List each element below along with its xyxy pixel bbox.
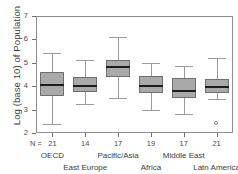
y-tick-label: 6: [4, 35, 28, 43]
box-iqr: [106, 60, 130, 76]
whisker-cap-lower: [142, 110, 160, 111]
whisker-cap-lower: [175, 114, 193, 115]
n-prefix-label: N =: [30, 139, 42, 148]
category-label: Pacific/Asia: [86, 151, 150, 160]
whisker-cap-lower: [109, 98, 127, 99]
x-tick-mark: [217, 133, 218, 137]
whisker-cap-upper: [76, 60, 94, 61]
category-label: OECD: [20, 151, 84, 160]
category-label: Latn America: [185, 163, 238, 172]
whisker-cap-upper: [109, 37, 127, 38]
plot-area: [36, 16, 233, 133]
y-tick-mark: [32, 133, 36, 134]
whisker-cap-upper: [43, 53, 61, 54]
chart-root: Log (base 10) of Population 765432 N = 2…: [0, 0, 238, 174]
category-label: Africa: [119, 163, 183, 172]
median-line: [106, 66, 130, 68]
median-line: [40, 84, 64, 86]
y-tick-label: 2: [4, 129, 28, 137]
x-tick-mark: [151, 133, 152, 137]
x-tick-mark: [118, 133, 119, 137]
x-tick-mark: [184, 133, 185, 137]
n-count-label: 21: [207, 139, 227, 148]
x-tick-mark: [52, 133, 53, 137]
y-tick-label: 5: [4, 59, 28, 67]
category-label: Middle East: [152, 151, 216, 160]
whisker-cap-lower: [208, 99, 226, 100]
n-count-label: 19: [141, 139, 161, 148]
n-count-label: 14: [75, 139, 95, 148]
box-iqr: [172, 78, 196, 98]
y-tick-label: 3: [4, 106, 28, 114]
whisker-cap-lower: [76, 104, 94, 105]
median-line: [73, 85, 97, 87]
whisker-cap-upper: [175, 66, 193, 67]
x-tick-mark: [85, 133, 86, 137]
median-line: [172, 90, 196, 92]
whisker-cap-lower: [43, 124, 61, 125]
median-line: [205, 86, 229, 88]
outlier-point: [214, 121, 218, 125]
y-tick-label: 4: [4, 82, 28, 90]
n-count-label: 17: [174, 139, 194, 148]
whisker-cap-upper: [142, 63, 160, 64]
n-count-label: 21: [42, 139, 62, 148]
n-count-label: 17: [108, 139, 128, 148]
y-tick-label: 7: [4, 12, 28, 20]
median-line: [139, 85, 163, 87]
whisker-cap-upper: [208, 58, 226, 59]
category-label: East Europe: [53, 163, 117, 172]
